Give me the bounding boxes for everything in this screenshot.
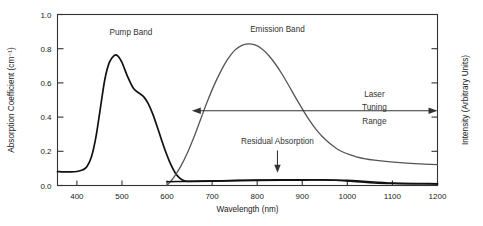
y-axis-title: Absorption Coefficient (cm⁻¹) <box>7 47 16 153</box>
x-tick-label: 800 <box>251 192 265 201</box>
x-tick-label: 1200 <box>429 192 447 201</box>
laser-tuning-range-line2: Tuning <box>362 103 387 112</box>
secondary-y-axis-ticks <box>432 49 438 152</box>
residual-absorption-label: Residual Absorption <box>241 137 314 146</box>
plot-frame <box>58 15 438 186</box>
x-tick-label: 1100 <box>384 192 402 201</box>
x-tick-label: 700 <box>205 192 219 201</box>
figure-container: 400500600700800900100011001200 0.00.20.4… <box>0 0 483 226</box>
y-tick-label: 0.8 <box>40 45 52 54</box>
y-axis-tick-labels: 0.00.20.40.60.81.0 <box>40 11 52 191</box>
y-axis-ticks <box>58 15 64 186</box>
y-tick-label: 1.0 <box>40 11 52 20</box>
curve-emission-band <box>167 44 437 186</box>
y-tick-label: 0.2 <box>40 147 52 156</box>
x-tick-label: 400 <box>70 192 84 201</box>
y-tick-label: 0.0 <box>40 182 52 191</box>
y-tick-label: 0.6 <box>40 79 52 88</box>
y-tick-label: 0.4 <box>40 113 52 122</box>
absorption-emission-spectrum-chart: 400500600700800900100011001200 0.00.20.4… <box>0 0 483 226</box>
laser-tuning-range-line3: Range <box>362 117 387 126</box>
residual-absorption-arrow-head <box>274 165 280 173</box>
laser-tuning-range-arrow-head-left <box>192 108 201 114</box>
x-axis-title: Wavelength (nm) <box>216 205 278 214</box>
x-axis-tick-labels: 400500600700800900100011001200 <box>70 192 447 201</box>
pump-band-label: Pump Band <box>110 28 153 37</box>
x-tick-label: 600 <box>160 192 174 201</box>
x-tick-label: 900 <box>296 192 310 201</box>
emission-band-label: Emission Band <box>250 25 305 34</box>
data-curves <box>58 44 438 186</box>
secondary-y-axis-title: Intensity (Arbitrary Units) <box>461 55 470 145</box>
laser-tuning-range-arrow-head-right <box>429 108 438 114</box>
x-tick-label: 500 <box>115 192 129 201</box>
laser-tuning-range-line1: Laser <box>364 90 385 99</box>
x-tick-label: 1000 <box>338 192 356 201</box>
